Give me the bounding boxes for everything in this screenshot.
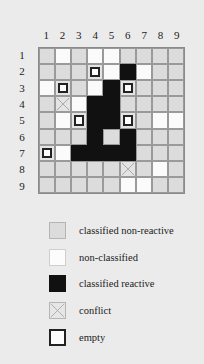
grid-cell-r5-c4-classified-reactive xyxy=(87,112,103,128)
grid-cell-r5-c8-non-classified xyxy=(152,112,168,128)
grid-cell-r4-c7-classified-non-reactive xyxy=(136,96,152,112)
grid-cell-r2-c5-non-classified xyxy=(103,64,119,80)
grid-cell-r4-c6-classified-non-reactive xyxy=(120,96,136,112)
swatch-conflict-icon xyxy=(49,302,66,319)
legend-item-non-classified: non-classified xyxy=(49,244,174,271)
grid-cell-r7-c3-classified-reactive xyxy=(71,145,87,161)
column-labels: 1 2 3 4 5 6 7 8 9 xyxy=(38,28,185,42)
conflict-cross-icon xyxy=(121,162,135,176)
grid-cell-r4-c5-classified-reactive xyxy=(103,96,119,112)
grid-cell-r7-c7-classified-non-reactive xyxy=(136,145,152,161)
grid-cell-r3-c4-non-classified xyxy=(87,80,103,96)
legend-item-classified-non-reactive: classified non-reactive xyxy=(49,217,174,244)
grid-cell-r9-c7-non-classified xyxy=(136,177,152,193)
grid-cell-r7-c8-classified-non-reactive xyxy=(152,145,168,161)
grid-cell-r1-c4-non-classified xyxy=(87,48,103,64)
grid-cell-r8-c2-classified-non-reactive xyxy=(55,161,71,177)
grid-cell-r8-c1-classified-non-reactive xyxy=(39,161,55,177)
column-label: 2 xyxy=(54,28,70,42)
grid-cell-r9-c5-classified-non-reactive xyxy=(103,177,119,193)
column-label: 8 xyxy=(152,28,168,42)
grid-cell-r3-c1-non-classified xyxy=(39,80,55,96)
grid-cell-r5-c3-empty xyxy=(71,112,87,128)
grid-cell-r1-c1-classified-non-reactive xyxy=(39,48,55,64)
legend-item-conflict: conflict xyxy=(49,297,174,324)
grid-cell-r4-c9-classified-non-reactive xyxy=(168,96,184,112)
legend-label: conflict xyxy=(79,305,111,316)
column-label: 9 xyxy=(169,28,185,42)
grid-cell-r6-c4-classified-reactive xyxy=(87,129,103,145)
grid-cell-r4-c8-classified-non-reactive xyxy=(152,96,168,112)
grid-cell-r6-c7-classified-non-reactive xyxy=(136,129,152,145)
grid-cell-r3-c7-classified-non-reactive xyxy=(136,80,152,96)
grid-cell-r8-c8-non-classified xyxy=(152,161,168,177)
grid-cell-r1-c8-classified-non-reactive xyxy=(152,48,168,64)
grid-cell-r2-c1-classified-non-reactive xyxy=(39,64,55,80)
grid-cell-r2-c2-classified-non-reactive xyxy=(55,64,71,80)
grid-cell-r8-c3-classified-non-reactive xyxy=(71,161,87,177)
swatch-classified-reactive-icon xyxy=(49,275,66,292)
legend-label: empty xyxy=(79,332,105,343)
legend-item-classified-reactive: classified reactive xyxy=(49,270,174,297)
grid-cell-r1-c6-classified-non-reactive xyxy=(120,48,136,64)
grid-cell-r5-c5-classified-reactive xyxy=(103,112,119,128)
row-label: 5 xyxy=(14,112,30,128)
grid-cell-r6-c9-classified-non-reactive xyxy=(168,129,184,145)
grid-cell-r2-c9-classified-non-reactive xyxy=(168,64,184,80)
row-label: 9 xyxy=(14,178,30,194)
row-label: 6 xyxy=(14,129,30,145)
row-label: 4 xyxy=(14,96,30,112)
grid-cell-r7-c2-non-classified xyxy=(55,145,71,161)
grid-cell-r3-c9-classified-non-reactive xyxy=(168,80,184,96)
grid-cell-r2-c6-classified-reactive xyxy=(120,64,136,80)
grid-cell-r1-c7-classified-non-reactive xyxy=(136,48,152,64)
grid-cell-r9-c6-non-classified xyxy=(120,177,136,193)
grid-cell-r7-c9-classified-non-reactive xyxy=(168,145,184,161)
row-labels: 1 2 3 4 5 6 7 8 9 xyxy=(14,47,30,194)
row-label: 3 xyxy=(14,80,30,96)
grid-cell-r1-c2-non-classified xyxy=(55,48,71,64)
grid-cell-r8-c7-classified-non-reactive xyxy=(136,161,152,177)
row-label: 1 xyxy=(14,47,30,63)
column-label: 3 xyxy=(71,28,87,42)
row-label: 2 xyxy=(14,63,30,79)
grid-cell-r1-c9-classified-non-reactive xyxy=(168,48,184,64)
column-label: 1 xyxy=(38,28,54,42)
grid-cell-r2-c4-empty xyxy=(87,64,103,80)
row-label: 8 xyxy=(14,161,30,177)
legend: classified non-reactive non-classified c… xyxy=(49,217,174,350)
grid-cell-r4-c3-non-classified xyxy=(71,96,87,112)
grid-cell-r6-c3-classified-non-reactive xyxy=(71,129,87,145)
grid-cell-r1-c3-classified-non-reactive xyxy=(71,48,87,64)
grid-cell-r1-c5-non-classified xyxy=(103,48,119,64)
grid-cell-r5-c7-classified-non-reactive xyxy=(136,112,152,128)
grid-cell-r8-c4-classified-non-reactive xyxy=(87,161,103,177)
grid-cell-r5-c9-non-classified xyxy=(168,112,184,128)
grid-cell-r9-c1-classified-non-reactive xyxy=(39,177,55,193)
grid-cell-r7-c6-classified-reactive xyxy=(120,145,136,161)
grid-cell-r9-c4-classified-non-reactive xyxy=(87,177,103,193)
row-label: 7 xyxy=(14,145,30,161)
legend-label: classified non-reactive xyxy=(79,225,174,236)
column-label: 4 xyxy=(87,28,103,42)
grid-cell-r6-c8-classified-non-reactive xyxy=(152,129,168,145)
grid-cell-r2-c8-classified-non-reactive xyxy=(152,64,168,80)
grid-cell-r3-c5-classified-reactive xyxy=(103,80,119,96)
grid-cell-r4-c1-classified-non-reactive xyxy=(39,96,55,112)
grid-cell-r2-c3-classified-non-reactive xyxy=(71,64,87,80)
grid-cell-r3-c2-empty xyxy=(55,80,71,96)
grid-cell-r9-c8-classified-non-reactive xyxy=(152,177,168,193)
grid-cell-r8-c6-conflict xyxy=(120,161,136,177)
grid-cell-r6-c6-classified-reactive xyxy=(120,129,136,145)
grid-cell-r3-c6-empty xyxy=(120,80,136,96)
grid-cell-r9-c9-classified-non-reactive xyxy=(168,177,184,193)
grid-cell-r3-c3-classified-non-reactive xyxy=(71,80,87,96)
grid-cell-r5-c1-classified-non-reactive xyxy=(39,112,55,128)
legend-label: non-classified xyxy=(79,252,138,263)
swatch-non-classified-icon xyxy=(49,249,66,266)
column-label: 7 xyxy=(136,28,152,42)
grid-cell-r4-c4-classified-reactive xyxy=(87,96,103,112)
conflict-cross-icon xyxy=(56,97,70,111)
grid-cell-r7-c5-classified-reactive xyxy=(103,145,119,161)
grid-cell-r7-c1-empty xyxy=(39,145,55,161)
